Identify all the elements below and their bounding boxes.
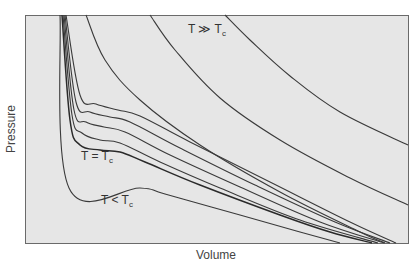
plot-area <box>26 16 409 244</box>
pv-isotherm-chart: T ≫ Tc T = Tc T < Tc Volume Pressure <box>0 0 418 263</box>
label-t-much-greater-tc: T ≫ Tc <box>188 22 226 38</box>
label-t-equals-tc: T = Tc <box>81 149 113 165</box>
x-axis-label: Volume <box>196 248 236 262</box>
label-t-less-than-tc: T < Tc <box>101 193 133 209</box>
y-axis-label: Pressure <box>4 105 18 153</box>
